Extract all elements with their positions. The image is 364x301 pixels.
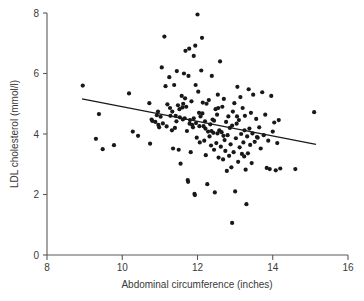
data-point [215, 113, 219, 117]
data-point [212, 148, 216, 152]
data-point [263, 113, 267, 117]
x-tick-label: 8 [44, 262, 50, 273]
data-point [234, 136, 238, 140]
data-point [162, 34, 166, 38]
data-point [253, 140, 257, 144]
data-point [209, 129, 213, 133]
data-point [218, 59, 222, 63]
data-point [188, 122, 192, 126]
data-point [131, 129, 135, 133]
data-point [312, 110, 316, 114]
data-point [174, 119, 178, 123]
data-point [225, 169, 229, 173]
data-point [227, 154, 231, 158]
data-point [192, 54, 196, 58]
data-point [238, 145, 242, 149]
data-point [242, 154, 246, 158]
x-tick-label: 14 [267, 262, 279, 273]
y-axis-title: LDL cholesterol (mmol/l) [9, 80, 20, 188]
data-point [278, 166, 282, 170]
data-point [173, 126, 177, 130]
data-point [204, 153, 208, 157]
data-point [101, 147, 105, 151]
x-tick-label: 12 [192, 262, 204, 273]
data-point [183, 49, 187, 53]
data-point [170, 110, 174, 114]
data-point [167, 75, 171, 79]
data-point [209, 143, 213, 147]
data-point [161, 121, 165, 125]
scatter-plot-figure: 02468 810121416 Abdominal circumference … [0, 0, 364, 301]
data-point [180, 94, 184, 98]
data-point [239, 132, 243, 136]
data-point [193, 44, 197, 48]
data-point [229, 142, 233, 146]
data-point [202, 139, 206, 143]
data-point [233, 189, 237, 193]
data-point [257, 125, 261, 129]
data-point [222, 97, 226, 101]
data-point [183, 96, 187, 100]
data-point [268, 167, 272, 171]
plot-canvas: 02468 810121416 Abdominal circumference … [0, 0, 364, 301]
data-point [247, 126, 251, 130]
data-point [220, 105, 224, 109]
data-point [247, 87, 251, 91]
data-point [176, 103, 180, 107]
data-point [216, 106, 220, 110]
data-point [271, 129, 275, 133]
data-point [216, 155, 220, 159]
y-tick-label: 2 [33, 189, 39, 200]
data-point [197, 124, 201, 128]
data-point [223, 149, 227, 153]
data-point [185, 129, 189, 133]
data-point [226, 114, 230, 118]
data-point [275, 141, 279, 145]
data-point [230, 123, 234, 127]
data-point [186, 74, 190, 78]
data-point [219, 145, 223, 149]
data-point [224, 120, 228, 124]
data-point [178, 162, 182, 166]
data-point [244, 168, 248, 172]
x-axis-ticks: 810121416 [44, 255, 354, 273]
y-tick-label: 4 [33, 129, 39, 140]
data-point [213, 190, 217, 194]
data-point [189, 150, 193, 154]
data-point [230, 221, 234, 225]
data-point [248, 143, 252, 147]
data-point [181, 102, 185, 106]
data-point [94, 137, 98, 141]
regression-trendline [82, 99, 316, 144]
data-point [212, 119, 216, 123]
data-point [200, 111, 204, 115]
data-point [274, 168, 278, 172]
data-point [251, 93, 255, 97]
data-point [191, 125, 195, 129]
data-point [194, 83, 198, 87]
data-point [171, 146, 175, 150]
data-point [272, 120, 276, 124]
data-point [235, 122, 239, 126]
data-point [255, 135, 259, 139]
data-point [193, 193, 197, 197]
data-point [221, 134, 225, 138]
y-axis-ticks: 02468 [33, 8, 47, 261]
data-point [254, 117, 258, 121]
data-point [97, 112, 101, 116]
data-point [249, 111, 253, 115]
data-point [198, 140, 202, 144]
data-point [250, 161, 254, 165]
data-point [241, 140, 245, 144]
data-point [186, 180, 190, 184]
data-point [147, 101, 151, 105]
data-point [277, 118, 281, 122]
x-tick-label: 16 [342, 262, 354, 273]
data-point [232, 150, 236, 154]
data-point [204, 102, 208, 106]
data-point [207, 134, 211, 138]
data-point [216, 93, 220, 97]
data-point [241, 106, 245, 110]
data-point [226, 133, 230, 137]
data-point [269, 94, 273, 98]
